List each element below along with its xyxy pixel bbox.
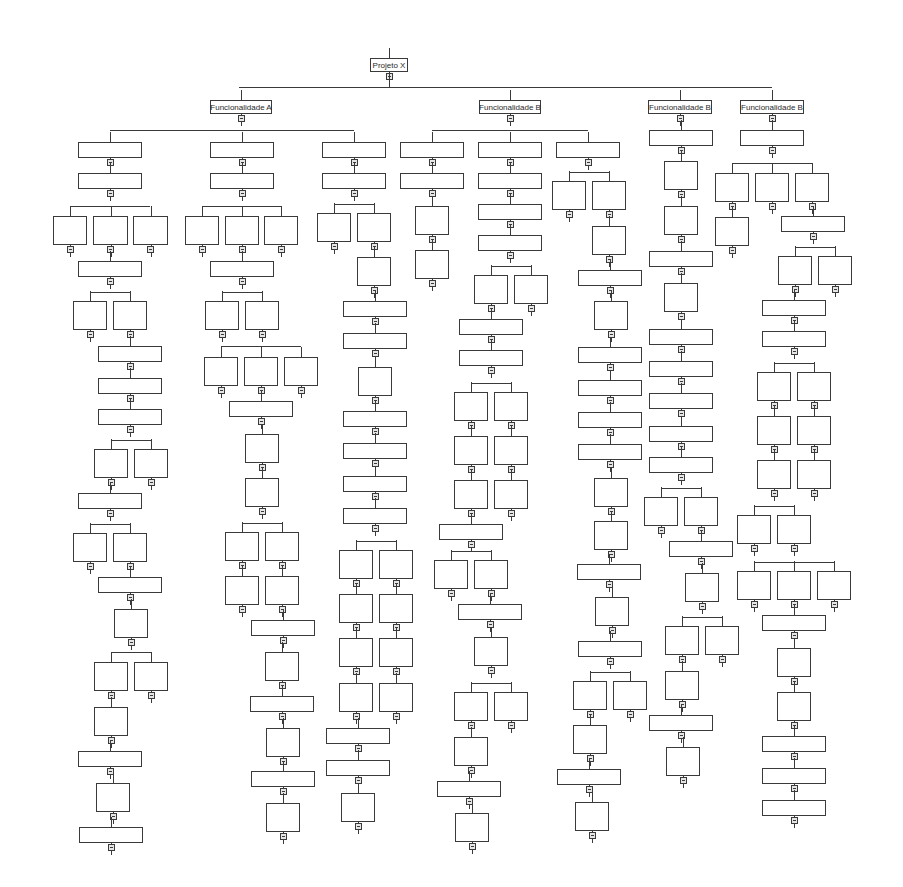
task-node [664, 161, 698, 190]
task-node [817, 571, 851, 600]
connector-stub [794, 605, 795, 615]
task-node [514, 275, 548, 304]
task-node [795, 173, 829, 202]
task-node [229, 401, 293, 417]
connector-stub [814, 406, 815, 416]
connector-stub [131, 599, 132, 609]
task-node [343, 443, 407, 459]
collapse-toggle-icon [751, 601, 758, 608]
connector-stub [683, 737, 684, 747]
task-node [455, 813, 489, 842]
connector-stub [531, 265, 532, 275]
connector-stub [681, 383, 682, 393]
collapse-toggle-icon [218, 387, 225, 394]
root-node-projeto-x: Projeto X [370, 58, 408, 72]
connector-stub [356, 628, 357, 638]
connector-stub [835, 246, 836, 256]
task-node [98, 577, 162, 593]
task-node [644, 497, 678, 526]
task-node [592, 226, 626, 255]
collapse-toggle-icon [468, 541, 475, 548]
task-node [317, 213, 351, 242]
task-node [578, 444, 642, 460]
task-node [557, 769, 621, 785]
connector-stub [111, 652, 112, 662]
connector-stub [701, 487, 702, 497]
connector-stub [701, 531, 702, 541]
task-node [797, 416, 831, 445]
collapse-toggle-icon [278, 246, 285, 253]
collapse-toggle-icon [566, 211, 573, 218]
collapse-toggle-icon [507, 252, 514, 259]
connector-stub [490, 594, 491, 604]
task-node [225, 532, 259, 561]
task-node [578, 270, 642, 286]
task-node [343, 476, 407, 492]
connector-stub [681, 447, 682, 457]
connector-stub [772, 163, 773, 173]
collapse-toggle-icon [589, 832, 596, 839]
connector-stub [682, 661, 683, 671]
task-node [684, 497, 718, 526]
collapse-toggle-icon [108, 844, 115, 851]
task-node [78, 493, 142, 509]
task-node [266, 803, 300, 832]
task-node [78, 261, 142, 277]
connector-stub [794, 790, 795, 800]
task-node [705, 626, 739, 655]
collapse-toggle-icon [127, 594, 134, 601]
connector-stub [130, 567, 131, 577]
task-node [265, 576, 299, 605]
connector-stub [202, 206, 203, 216]
collapse-toggle-icon [238, 115, 245, 122]
connector-stub [222, 291, 223, 301]
connector-stub [610, 260, 611, 270]
connector-stub [471, 682, 472, 692]
collapse-toggle-icon [279, 713, 286, 720]
task-node [400, 173, 464, 189]
task-node [592, 181, 626, 210]
collapse-toggle-icon [508, 510, 515, 517]
connector-bar [334, 204, 374, 205]
connector-stub [242, 566, 243, 576]
connector-stub [491, 550, 492, 560]
connector-stub [110, 163, 111, 173]
collapse-toggle-icon [792, 286, 799, 293]
task-node [113, 301, 147, 330]
task-node [666, 747, 700, 776]
task-node [665, 626, 699, 655]
connector-stub [90, 523, 91, 533]
task-node [94, 707, 128, 736]
task-node [494, 392, 528, 421]
task-node [594, 478, 628, 507]
connector-stub [151, 206, 152, 216]
connector-stub [130, 368, 131, 378]
connector-stub [794, 726, 795, 736]
task-node [133, 216, 168, 245]
connector-stub [358, 783, 359, 793]
task-node [494, 436, 528, 465]
task-node [474, 637, 508, 666]
task-node [458, 604, 522, 620]
connector-stub [261, 391, 262, 401]
connector-stub [772, 90, 773, 100]
task-node [379, 638, 413, 667]
connector-bar [569, 172, 609, 173]
task-node [357, 213, 391, 242]
task-node [98, 378, 162, 394]
task-node [762, 331, 826, 347]
collapse-toggle-icon [698, 558, 705, 565]
collapse-toggle-icon [769, 203, 776, 210]
connector-stub [510, 194, 511, 204]
task-node [664, 283, 698, 312]
collapse-toggle-icon [128, 639, 135, 646]
collapse-toggle-icon [147, 246, 154, 253]
task-node [762, 615, 826, 631]
collapse-toggle-icon [67, 246, 74, 253]
connector-stub [283, 610, 284, 620]
collapse-toggle-icon [239, 606, 246, 613]
connector-stub [151, 439, 152, 449]
connector-bar [661, 488, 701, 489]
task-node [439, 524, 503, 540]
connector-bar [239, 87, 772, 88]
